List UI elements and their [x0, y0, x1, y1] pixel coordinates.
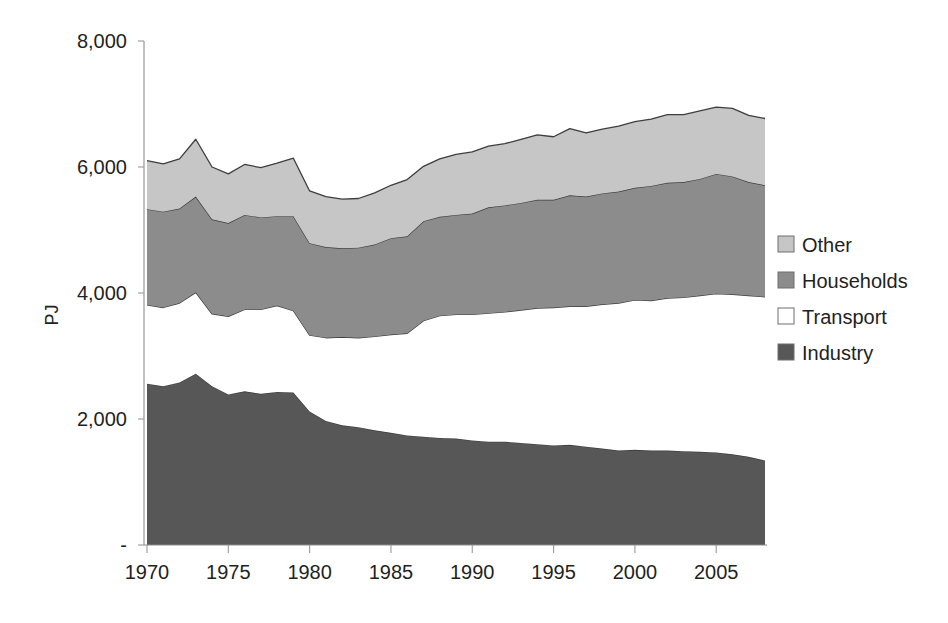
y-tick-label: 2,000: [77, 408, 127, 430]
y-axis-title: PJ: [42, 304, 62, 325]
x-tick-label: 2005: [694, 561, 739, 583]
x-tick-label: 1970: [125, 561, 170, 583]
x-tick-label: 1985: [369, 561, 414, 583]
y-tick-label: 6,000: [77, 156, 127, 178]
legend-label: Transport: [802, 306, 887, 328]
legend-swatch-icon: [778, 236, 794, 252]
legend-label: Households: [802, 270, 908, 292]
stacked-area-chart: -2,0004,0006,0008,000 197019751980198519…: [0, 0, 948, 623]
y-tick-label: 8,000: [77, 30, 127, 52]
y-tick-label: -: [120, 534, 127, 556]
legend-swatch-icon: [778, 308, 794, 324]
legend-item-transport[interactable]: Transport: [778, 306, 887, 328]
chart-canvas: -2,0004,0006,0008,000 197019751980198519…: [0, 0, 948, 623]
legend-label: Other: [802, 234, 852, 256]
x-tick-label: 1975: [206, 561, 251, 583]
x-tick-label: 1990: [450, 561, 495, 583]
y-tick-label: 4,000: [77, 282, 127, 304]
legend-item-households[interactable]: Households: [778, 270, 908, 292]
x-axis-tick-labels: 19701975198019851990199520002005: [125, 545, 739, 583]
x-tick-label: 1980: [287, 561, 332, 583]
legend-label: Industry: [802, 342, 873, 364]
chart-legend: OtherHouseholdsTransportIndustry: [778, 234, 908, 364]
y-axis-tick-labels: -2,0004,0006,0008,000: [77, 30, 144, 556]
series-layer: [147, 107, 765, 545]
legend-item-industry[interactable]: Industry: [778, 342, 873, 364]
x-tick-label: 1995: [531, 561, 576, 583]
legend-swatch-icon: [778, 272, 794, 288]
legend-item-other[interactable]: Other: [778, 234, 852, 256]
legend-swatch-icon: [778, 344, 794, 360]
x-tick-label: 2000: [613, 561, 658, 583]
